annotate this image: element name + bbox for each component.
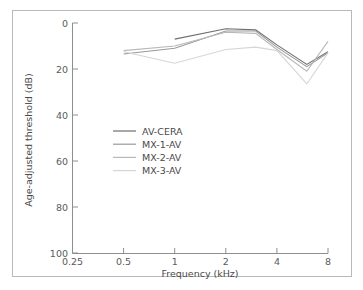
- y-axis-ticks: [73, 23, 79, 253]
- series-line-mx-1-av: [124, 31, 328, 67]
- y-axis-tick-labels: 020406080100: [50, 18, 68, 259]
- x-axis-tick-labels: 0.250.51248: [62, 256, 331, 267]
- y-tick-label: 40: [56, 110, 68, 121]
- x-tick-label: 2: [223, 256, 229, 267]
- chart-canvas: 020406080100 0.250.51248 Frequency (kHz)…: [0, 0, 363, 290]
- x-tick-label: 1: [172, 256, 178, 267]
- y-axis-title: Age-adjusted threshold (dB): [23, 73, 34, 207]
- x-tick-label: 0.5: [116, 256, 131, 267]
- legend-label-mx-1-av: MX-1-AV: [142, 139, 182, 150]
- y-tick-label: 80: [56, 202, 68, 213]
- legend-label-av-cera: AV-CERA: [142, 126, 183, 137]
- series-line-av-cera: [175, 29, 328, 65]
- legend-label-mx-3-av: MX-3-AV: [142, 165, 182, 176]
- x-tick-label: 0.25: [62, 256, 83, 267]
- x-axis-ticks: [73, 248, 329, 254]
- y-tick-label: 20: [56, 64, 68, 75]
- series-lines: [124, 29, 328, 84]
- x-tick-label: 4: [274, 256, 280, 267]
- series-line-mx-2-av: [124, 32, 328, 71]
- y-tick-label: 60: [56, 156, 68, 167]
- x-tick-label: 8: [325, 256, 331, 267]
- legend-label-mx-2-av: MX-2-AV: [142, 152, 182, 163]
- x-axis-title: Frequency (kHz): [161, 268, 238, 279]
- series-line-mx-3-av: [124, 47, 328, 84]
- chart-legend: AV-CERAMX-1-AVMX-2-AVMX-3-AV: [113, 126, 183, 177]
- y-tick-label: 0: [62, 18, 68, 29]
